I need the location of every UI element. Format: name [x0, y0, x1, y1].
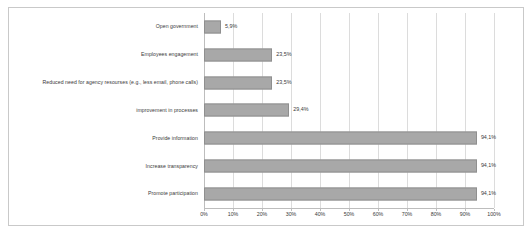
bar	[204, 76, 272, 89]
x-tick-label: 80%	[431, 212, 442, 217]
bar-row: Increase transparency94,1%	[204, 152, 494, 180]
x-tick-label: 50%	[344, 212, 355, 217]
bar-value-label: 94,1%	[481, 136, 496, 141]
gridline-100%	[494, 13, 495, 208]
x-tick-label: 30%	[286, 212, 297, 217]
category-label: Employees engagement	[141, 52, 198, 57]
bar-row: Open government5,9%	[204, 13, 494, 41]
category-label: Reduced need for agency resourses (e.g.,…	[43, 80, 199, 85]
category-label: improvement in processes	[136, 108, 198, 113]
bar	[204, 20, 221, 33]
x-tick-label: 60%	[373, 212, 384, 217]
category-label: Promote participation	[148, 191, 198, 196]
bar	[204, 160, 477, 173]
x-tick-label: 0%	[200, 212, 208, 217]
plot-area: Open government5,9%Employees engagement2…	[204, 13, 494, 208]
bar-rows: Open government5,9%Employees engagement2…	[204, 13, 494, 208]
chart-frame: Open government5,9%Employees engagement2…	[8, 7, 524, 226]
bar-value-label: 23,5%	[276, 52, 291, 57]
x-tick-label: 40%	[315, 212, 326, 217]
x-tick-label: 70%	[402, 212, 413, 217]
x-axis-ticks: 0%10%20%30%40%50%60%70%80%90%100%	[204, 209, 494, 223]
category-label: Increase transparency	[146, 164, 198, 169]
bar-value-label: 94,1%	[481, 164, 496, 169]
bar-row: improvement in processes29,4%	[204, 97, 494, 125]
x-tick-label: 10%	[228, 212, 239, 217]
x-tick-label: 90%	[460, 212, 471, 217]
bar-value-label: 5,9%	[225, 24, 237, 29]
x-tick-label: 100%	[487, 212, 501, 217]
bar-row: Reduced need for agency resourses (e.g.,…	[204, 69, 494, 97]
bar	[204, 104, 289, 117]
bar	[204, 48, 272, 61]
bar-row: Employees engagement23,5%	[204, 41, 494, 69]
bar-row: Provide information94,1%	[204, 124, 494, 152]
x-tick-label: 20%	[257, 212, 268, 217]
category-label: Open government	[156, 24, 198, 29]
bar	[204, 188, 477, 201]
bar-value-label: 94,1%	[481, 191, 496, 196]
bar	[204, 132, 477, 145]
category-label: Provide information	[152, 136, 198, 141]
bar-value-label: 29,4%	[293, 108, 308, 113]
bar-row: Promote participation94,1%	[204, 180, 494, 208]
bar-value-label: 23,5%	[276, 80, 291, 85]
